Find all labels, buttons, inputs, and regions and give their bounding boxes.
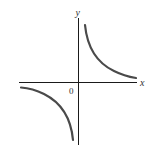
x-axis-label: x xyxy=(139,77,145,88)
curve-branch-quadrant-1 xyxy=(85,25,136,78)
hyperbola-plot: y x 0 xyxy=(0,0,153,154)
curve-branch-quadrant-3 xyxy=(21,88,73,141)
y-axis-label: y xyxy=(75,7,81,18)
origin-label: 0 xyxy=(69,86,74,96)
